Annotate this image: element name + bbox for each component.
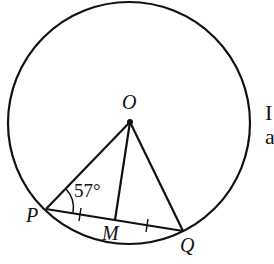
angle-label: 57°	[74, 180, 101, 201]
tick-mark-PM	[79, 208, 81, 221]
label-M: M	[101, 222, 120, 244]
center-point-O	[127, 119, 133, 125]
label-Q: Q	[180, 234, 195, 256]
circle-diagram: O P M Q 57° I a	[0, 0, 274, 264]
segment-OQ	[130, 122, 183, 231]
label-P: P	[25, 204, 38, 226]
side-text-2: a	[265, 124, 274, 149]
side-text-1: I	[265, 100, 272, 125]
tick-mark-MQ	[146, 219, 148, 232]
angle-arc-P	[66, 189, 73, 213]
label-O: O	[122, 91, 136, 113]
